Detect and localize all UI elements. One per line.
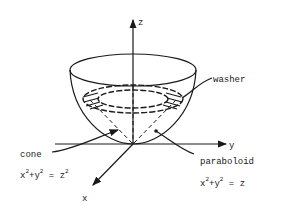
y-axis-label: y <box>229 141 235 151</box>
cone-equation: x2+y2 = z2 <box>20 168 69 181</box>
volume-diagram: z y x washer cone x2+y2 = z2 paraboloid … <box>0 0 284 214</box>
cone-label: cone <box>20 150 42 160</box>
z-axis-label: z <box>138 18 143 28</box>
washer-leader <box>182 78 212 98</box>
paraboloid-label: paraboloid <box>200 157 254 167</box>
x-axis <box>93 144 133 185</box>
cone-leader <box>52 130 118 152</box>
x-axis-label: x <box>82 194 87 204</box>
washer-label: washer <box>213 75 245 85</box>
paraboloid-leader <box>156 131 194 154</box>
paraboloid-equation: x2+y2 = z <box>200 176 245 189</box>
